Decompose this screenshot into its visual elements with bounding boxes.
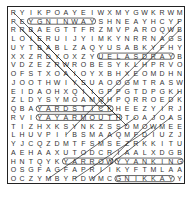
- grid-cell[interactable]: T: [79, 104, 88, 113]
- grid-cell[interactable]: R: [105, 148, 114, 157]
- grid-cell[interactable]: T: [123, 113, 132, 122]
- grid-cell[interactable]: R: [132, 96, 141, 105]
- grid-cell[interactable]: Y: [114, 34, 123, 43]
- grid-cell[interactable]: I: [27, 8, 36, 17]
- grid-cell[interactable]: Q: [35, 139, 44, 148]
- grid-cell[interactable]: E: [114, 139, 123, 148]
- grid-cell[interactable]: I: [62, 131, 71, 140]
- grid-cell[interactable]: M: [105, 26, 114, 35]
- grid-cell[interactable]: D: [79, 174, 88, 183]
- grid-cell[interactable]: H: [114, 104, 123, 113]
- grid-cell[interactable]: N: [18, 157, 27, 166]
- grid-cell[interactable]: Z: [97, 122, 106, 131]
- grid-cell[interactable]: I: [114, 148, 123, 157]
- grid-cell[interactable]: M: [44, 174, 53, 183]
- grid-cell[interactable]: A: [62, 69, 71, 78]
- grid-cell[interactable]: T: [70, 148, 79, 157]
- grid-cell[interactable]: A: [35, 148, 44, 157]
- grid-cell[interactable]: Y: [114, 61, 123, 70]
- grid-cell[interactable]: H: [35, 122, 44, 131]
- grid-cell[interactable]: I: [70, 69, 79, 78]
- grid-cell[interactable]: Y: [53, 52, 62, 61]
- grid-cell[interactable]: Y: [70, 8, 79, 17]
- grid-cell[interactable]: N: [167, 157, 176, 166]
- grid-cell[interactable]: O: [132, 113, 141, 122]
- grid-cell[interactable]: X: [97, 69, 106, 78]
- grid-cell[interactable]: R: [9, 26, 18, 35]
- grid-cell[interactable]: Y: [175, 174, 184, 183]
- grid-cell[interactable]: M: [97, 174, 106, 183]
- grid-cell[interactable]: O: [175, 61, 184, 70]
- grid-cell[interactable]: U: [97, 52, 106, 61]
- grid-cell[interactable]: A: [35, 26, 44, 35]
- grid-cell[interactable]: E: [35, 34, 44, 43]
- grid-cell[interactable]: I: [132, 174, 141, 183]
- grid-cell[interactable]: A: [79, 43, 88, 52]
- grid-cell[interactable]: H: [175, 87, 184, 96]
- grid-cell[interactable]: A: [44, 166, 53, 175]
- grid-cell[interactable]: M: [149, 69, 158, 78]
- grid-cell[interactable]: C: [97, 148, 106, 157]
- grid-cell[interactable]: O: [140, 69, 149, 78]
- grid-cell[interactable]: L: [9, 131, 18, 140]
- grid-cell[interactable]: P: [123, 26, 132, 35]
- grid-cell[interactable]: I: [62, 78, 71, 87]
- grid-cell[interactable]: F: [18, 69, 27, 78]
- grid-cell[interactable]: R: [53, 61, 62, 70]
- grid-cell[interactable]: A: [158, 78, 167, 87]
- grid-cell[interactable]: E: [158, 96, 167, 105]
- grid-cell[interactable]: Y: [53, 96, 62, 105]
- grid-cell[interactable]: R: [88, 157, 97, 166]
- grid-cell[interactable]: K: [149, 174, 158, 183]
- grid-cell[interactable]: G: [175, 157, 184, 166]
- grid-cell[interactable]: K: [140, 174, 149, 183]
- grid-cell[interactable]: K: [53, 157, 62, 166]
- grid-cell[interactable]: U: [105, 43, 114, 52]
- grid-cell[interactable]: G: [132, 8, 141, 17]
- grid-cell[interactable]: E: [79, 8, 88, 17]
- grid-cell[interactable]: B: [70, 131, 79, 140]
- grid-cell[interactable]: E: [132, 69, 141, 78]
- grid-cell[interactable]: W: [70, 17, 79, 26]
- grid-cell[interactable]: A: [167, 113, 176, 122]
- grid-cell[interactable]: E: [18, 148, 27, 157]
- grid-cell[interactable]: R: [9, 113, 18, 122]
- grid-cell[interactable]: K: [140, 43, 149, 52]
- grid-cell[interactable]: G: [167, 148, 176, 157]
- grid-cell[interactable]: X: [70, 52, 79, 61]
- grid-cell[interactable]: V: [9, 61, 18, 70]
- grid-cell[interactable]: Y: [70, 122, 79, 131]
- grid-cell[interactable]: R: [9, 8, 18, 17]
- grid-cell[interactable]: K: [105, 104, 114, 113]
- grid-cell[interactable]: V: [167, 61, 176, 70]
- grid-cell[interactable]: Y: [35, 113, 44, 122]
- grid-cell[interactable]: D: [88, 148, 97, 157]
- grid-cell[interactable]: I: [158, 157, 167, 166]
- grid-cell[interactable]: Y: [35, 96, 44, 105]
- grid-cell[interactable]: H: [149, 17, 158, 26]
- grid-cell[interactable]: O: [79, 61, 88, 70]
- grid-cell[interactable]: K: [88, 122, 97, 131]
- grid-cell[interactable]: U: [158, 131, 167, 140]
- grid-cell[interactable]: Z: [9, 96, 18, 105]
- grid-cell[interactable]: V: [35, 131, 44, 140]
- grid-cell[interactable]: X: [18, 52, 27, 61]
- grid-cell[interactable]: R: [70, 174, 79, 183]
- grid-cell[interactable]: O: [70, 96, 79, 105]
- grid-cell[interactable]: I: [62, 34, 71, 43]
- grid-cell[interactable]: A: [175, 166, 184, 175]
- grid-cell[interactable]: M: [88, 131, 97, 140]
- grid-cell[interactable]: E: [105, 52, 114, 61]
- grid-cell[interactable]: M: [79, 113, 88, 122]
- grid-cell[interactable]: D: [140, 87, 149, 96]
- grid-cell[interactable]: R: [79, 157, 88, 166]
- grid-cell[interactable]: W: [149, 122, 158, 131]
- grid-cell[interactable]: C: [27, 139, 36, 148]
- grid-cell[interactable]: T: [35, 78, 44, 87]
- grid-cell[interactable]: X: [149, 148, 158, 157]
- grid-cell[interactable]: Q: [114, 131, 123, 140]
- grid-cell[interactable]: K: [175, 96, 184, 105]
- grid-cell[interactable]: T: [70, 26, 79, 35]
- grid-cell[interactable]: G: [123, 87, 132, 96]
- grid-cell[interactable]: H: [114, 113, 123, 122]
